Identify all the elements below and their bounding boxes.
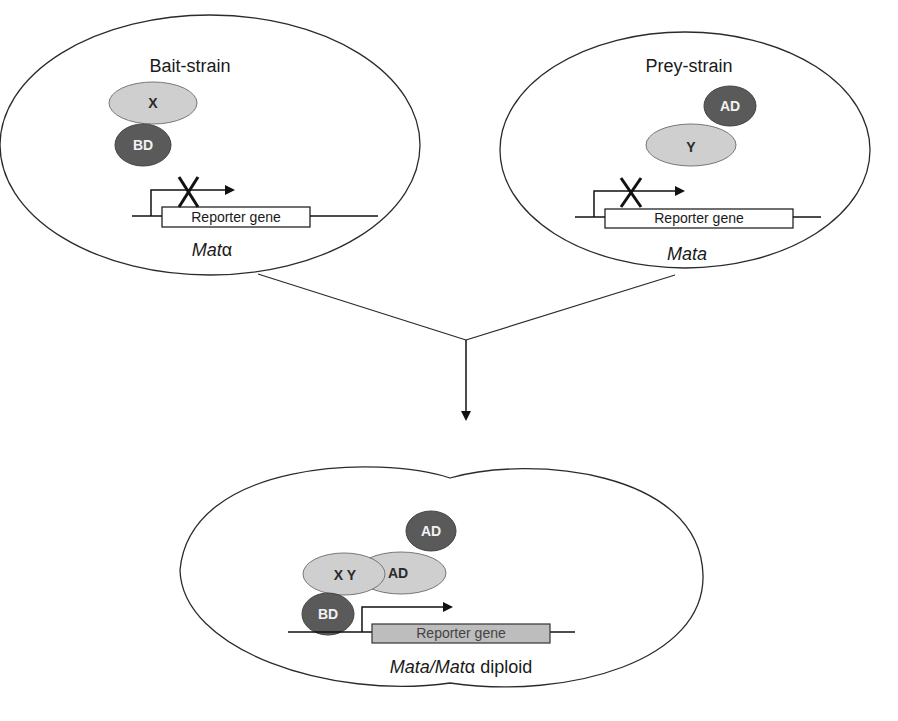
prey-connector-line (466, 275, 675, 340)
two-hybrid-diagram: Bait-strain X BD Reporter gene Matα Prey… (0, 0, 898, 721)
prey-mating-type: Mata (667, 244, 707, 264)
prey-reporter-gene-label: Reporter gene (654, 210, 744, 226)
binding-domain-diploid-label: BD (318, 606, 338, 622)
bait-reporter-gene-label: Reporter gene (191, 209, 281, 225)
protein-y-label: Y (686, 139, 696, 155)
prey-cell: Prey-strain AD Y Reporter gene Mata (500, 32, 870, 268)
bait-cell: Bait-strain X BD Reporter gene Matα (0, 15, 420, 275)
activation-domain-prey-label: AD (720, 98, 740, 114)
diploid-mating-type: Mata/Matα diploid (390, 657, 532, 677)
binding-domain-bait-label: BD (133, 137, 153, 153)
protein-x-label: X (148, 95, 158, 111)
protein-xy-label: X Y (334, 567, 357, 583)
activation-domain-diploid-top-label: AD (421, 523, 441, 539)
diploid-cell: AD AD X Y BD Reporter gene Mata/Matα dip… (180, 467, 703, 687)
bait-connector-line (258, 274, 466, 340)
activation-domain-diploid-mid-label: AD (388, 565, 408, 581)
bait-strain-title: Bait-strain (149, 56, 230, 76)
bait-blocked-x-icon (179, 177, 198, 207)
prey-strain-title: Prey-strain (645, 56, 732, 76)
mating-connector (258, 274, 675, 418)
bait-mating-type: Matα (192, 240, 232, 260)
diploid-reporter-gene-label: Reporter gene (416, 625, 506, 641)
prey-blocked-x-icon (621, 178, 641, 207)
bait-cell-membrane (0, 15, 420, 275)
